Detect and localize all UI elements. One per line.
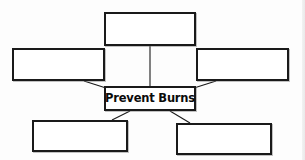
- concept-box-center-label: Prevent Burns: [105, 93, 195, 105]
- connector-center-to-bottom-left: [112, 111, 130, 120]
- concept-box-lower-left[interactable]: [32, 120, 128, 152]
- concept-box-top[interactable]: [104, 12, 196, 46]
- concept-box-lower-right[interactable]: [176, 123, 272, 155]
- connector-center-to-bottom-right: [170, 111, 190, 123]
- diagram-canvas: Prevent Burns: [0, 0, 305, 160]
- page-margin-edge: [302, 0, 305, 160]
- connector-center-to-right: [194, 81, 216, 88]
- concept-box-center[interactable]: Prevent Burns: [104, 86, 196, 111]
- connector-center-to-left: [84, 81, 106, 88]
- concept-box-upper-left[interactable]: [12, 48, 105, 81]
- concept-box-upper-right[interactable]: [196, 48, 289, 81]
